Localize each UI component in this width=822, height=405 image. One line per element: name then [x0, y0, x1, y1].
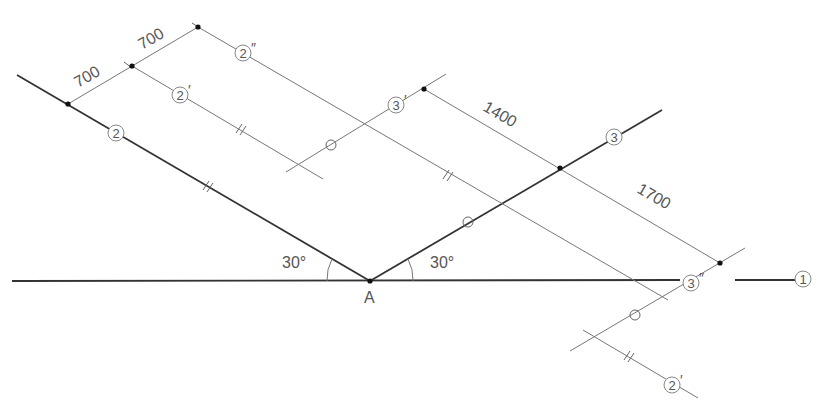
line-label-3-prime: 3 ′ — [388, 92, 407, 113]
angle-arc-left — [327, 259, 332, 281]
geometry-diagram: A 30° 30° 700 700 1400 1700 2 2 ′ 2 ″ 3 … — [0, 0, 822, 405]
line-label-1: 1 — [795, 271, 811, 287]
point — [129, 63, 134, 68]
parallel-mark — [443, 170, 453, 181]
svg-text:1: 1 — [799, 272, 806, 287]
svg-text:3: 3 — [687, 276, 694, 291]
point — [717, 260, 722, 265]
line-label-3-double-prime: 3 ″ — [683, 270, 704, 291]
dimension-label-1700: 1700 — [635, 180, 674, 213]
line-label-2-prime-bottom: 2 ′ — [664, 372, 683, 393]
point — [421, 86, 426, 91]
parallel-mark — [624, 351, 634, 362]
point — [557, 165, 562, 170]
point-a — [367, 278, 372, 283]
svg-text:2: 2 — [239, 46, 246, 61]
svg-text:′: ′ — [680, 372, 683, 388]
point — [65, 101, 70, 106]
angle-arc-right — [408, 259, 413, 281]
svg-text:3: 3 — [392, 98, 399, 113]
dimension-line-1400-1700 — [424, 89, 720, 263]
point-a-label: A — [364, 289, 375, 306]
angle-label-right: 30° — [430, 254, 454, 271]
line-2 — [17, 75, 370, 281]
svg-text:′: ′ — [188, 82, 191, 98]
svg-text:2: 2 — [176, 88, 183, 103]
svg-text:′: ′ — [404, 92, 407, 108]
point — [195, 24, 200, 29]
svg-text:2: 2 — [668, 378, 675, 393]
angle-label-left: 30° — [282, 254, 306, 271]
svg-text:″: ″ — [699, 270, 704, 286]
line-1 — [12, 280, 680, 281]
svg-text:3: 3 — [610, 130, 617, 145]
svg-text:″: ″ — [251, 40, 256, 56]
line-label-3: 3 — [606, 129, 622, 145]
svg-text:2: 2 — [112, 126, 119, 141]
line-label-2: 2 — [108, 125, 124, 141]
line-label-2-prime-top: 2 ′ — [172, 82, 191, 103]
parallel-mark — [236, 124, 246, 135]
line-label-2-double-prime: 2 ″ — [235, 40, 256, 61]
